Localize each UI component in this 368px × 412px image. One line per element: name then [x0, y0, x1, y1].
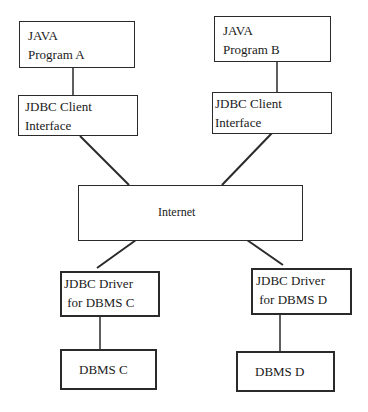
- java-program-b-box: JAVA Program B: [214, 16, 331, 62]
- jdbc-driver-dbms-d-box: JDBC Driver for DBMS D: [251, 268, 352, 315]
- internet-box: Internet: [78, 185, 303, 241]
- edge-internet-to-driver-d: [247, 240, 283, 265]
- java-program-a-label: JAVA Program A: [28, 26, 85, 64]
- edge-client-b-to-internet: [222, 133, 272, 185]
- jdbc-driver-dbms-c-label: JDBC Driver for DBMS C: [64, 274, 134, 312]
- java-program-a-box: JAVA Program A: [19, 21, 135, 68]
- dbms-c-box: DBMS C: [60, 349, 157, 390]
- dbms-d-label: DBMS D: [255, 362, 305, 381]
- internet-label: Internet: [158, 203, 195, 222]
- jdbc-client-interface-a-box: JDBC Client Interface: [18, 95, 138, 136]
- jdbc-driver-dbms-d-label: JDBC Driver for DBMS D: [256, 271, 327, 309]
- java-program-b-label: JAVA Program B: [223, 21, 280, 59]
- edge-internet-to-driver-c: [97, 240, 136, 268]
- edge-client-a-to-internet: [80, 136, 129, 185]
- dbms-d-box: DBMS D: [236, 351, 335, 392]
- jdbc-client-interface-a-label: JDBC Client Interface: [25, 97, 92, 135]
- jdbc-architecture-diagram: JAVA Program A JDBC Client Interface JAV…: [0, 0, 368, 412]
- jdbc-client-interface-b-box: JDBC Client Interface: [212, 92, 332, 134]
- dbms-c-label: DBMS C: [79, 360, 128, 379]
- jdbc-client-interface-b-label: JDBC Client Interface: [215, 94, 282, 132]
- jdbc-driver-dbms-c-box: JDBC Driver for DBMS C: [60, 271, 160, 317]
